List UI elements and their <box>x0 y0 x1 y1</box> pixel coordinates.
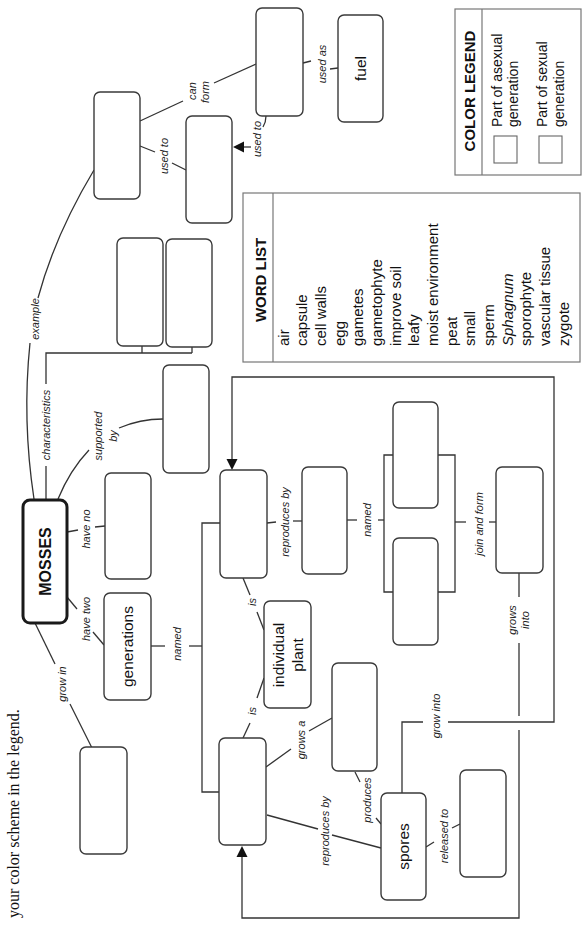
link-label-supported-by: by <box>107 429 119 442</box>
link-label-can-form: form <box>199 81 211 103</box>
link-line-named-bracket <box>202 523 220 792</box>
link-line-have-no <box>67 530 78 532</box>
link-label-have-no: have no <box>80 509 92 548</box>
legend-label-asexual: Part of asexual <box>489 34 505 127</box>
link-line-named-bracket <box>384 455 393 592</box>
word-list-item: gametophyte <box>368 259 385 346</box>
link-line-used-to <box>172 163 186 170</box>
blank-box-gamete-2 <box>393 538 438 645</box>
link-label-example: example <box>29 298 41 340</box>
word-list-item: peat <box>443 316 460 346</box>
link-line-grow-in <box>70 704 92 748</box>
link-line-is <box>243 578 250 595</box>
link-label-characteristics: characteristics <box>40 389 52 460</box>
link-line-reproduces-by <box>332 835 381 848</box>
link-label-have-two: have two <box>80 597 92 641</box>
link-label-released-to: released to <box>438 809 450 863</box>
legend-label-sexual: Part of sexual <box>534 41 550 127</box>
link-line-used-as <box>330 68 338 69</box>
moss-concept-map: your color scheme in the legend. <box>0 0 583 927</box>
link-line-used-to <box>140 146 155 152</box>
link-line-example <box>38 170 94 298</box>
word-list-item: cell walls <box>312 286 329 346</box>
blank-box-sporophyte-generation <box>219 738 266 845</box>
link-line-can-form <box>140 101 183 121</box>
word-list-item: egg <box>331 321 348 346</box>
blank-box-gamete-1 <box>393 402 438 508</box>
link-label-supported-by: supported <box>92 411 104 461</box>
word-list-item: leafy <box>405 314 422 346</box>
link-label-is: is <box>246 707 258 715</box>
word-list-item: moist environment <box>424 223 441 346</box>
link-label-used-to: used to <box>251 121 263 157</box>
link-line-supported-by <box>119 419 163 428</box>
blank-box-characteristic-2 <box>166 239 212 347</box>
link-label-reproduces-by: reproduces by <box>319 795 331 866</box>
word-list-item: gametes <box>349 288 366 346</box>
link-line-released-to <box>452 824 460 828</box>
link-line-produces <box>376 818 381 824</box>
node-generations-label: generations <box>119 606 136 687</box>
word-list-item: small <box>461 311 478 346</box>
legend-swatch-sexual <box>539 136 562 163</box>
blank-box-grows-a <box>332 663 377 771</box>
word-list-item: improve soil <box>387 266 404 346</box>
link-label-is: is <box>246 598 258 606</box>
color-legend-panel: COLOR LEGEND Part of asexual generation … <box>455 9 581 175</box>
word-list-item: sperm <box>480 304 497 346</box>
word-list-item: sporophyte <box>517 272 534 346</box>
link-label-grow-into: grow into <box>430 694 442 739</box>
link-line-used-as <box>303 61 311 63</box>
link-label-join-and-form: join and form <box>473 492 485 558</box>
color-legend-title: COLOR LEGEND <box>461 30 478 151</box>
link-label-grows-a: grows a <box>295 721 307 760</box>
word-list-title: WORD LIST <box>252 238 269 322</box>
blank-box-reproduces-by <box>302 467 347 574</box>
link-label-used-to: used to <box>158 138 170 174</box>
legend-swatch-asexual <box>494 136 517 163</box>
blank-box-have-no <box>105 473 151 579</box>
blank-box-example <box>94 92 140 199</box>
word-list-item: Sphagnum <box>499 273 516 346</box>
link-line-released-to <box>426 842 434 847</box>
central-concept-label: MOSSES <box>37 527 54 596</box>
word-list-panel: WORD LIST air capsule cell walls egg gam… <box>243 193 580 362</box>
link-label-can-form: can <box>186 82 198 100</box>
arrowhead-icon <box>227 459 238 470</box>
blank-box-characteristic-1 <box>117 238 163 346</box>
link-line-can-form <box>214 64 256 83</box>
node-spores-label: spores <box>395 823 412 870</box>
link-label-grows-into: into <box>519 611 531 629</box>
link-line-used-to-arrow <box>263 116 266 127</box>
arrowhead-icon <box>233 142 244 153</box>
word-list-item: vascular tissue <box>536 247 553 346</box>
link-line-is <box>257 678 264 698</box>
link-label-produces: produces <box>361 777 373 824</box>
link-line-grow-in <box>35 623 55 664</box>
link-label-named: named <box>171 626 183 661</box>
link-label-named: named <box>361 502 373 537</box>
link-line-grows-a <box>309 718 332 731</box>
link-line-supported-by <box>58 450 89 499</box>
link-line-produces <box>355 772 360 782</box>
word-list-item: zygote <box>555 302 572 346</box>
link-line-reproduces-by <box>267 522 276 523</box>
node-individual-plant-label: individual <box>270 623 287 688</box>
link-line-have-two <box>93 632 104 645</box>
legend-label-sexual: generation <box>551 61 567 127</box>
blank-box-used-to <box>186 116 232 223</box>
link-line-example <box>27 343 34 499</box>
instruction-text: your color scheme in the legend. <box>5 709 23 918</box>
link-label-grow-in: grow in <box>56 666 68 701</box>
legend-label-asexual: generation <box>505 61 521 127</box>
word-list-item: capsule <box>293 294 310 346</box>
arrowhead-icon <box>237 846 248 857</box>
link-line-grow-into <box>402 722 423 793</box>
blank-box-can-form <box>256 8 303 116</box>
blank-box-join-and-form <box>496 467 543 573</box>
blank-box-supported-by <box>163 365 209 473</box>
node-individual-plant-label: plant <box>289 638 306 672</box>
link-line-reproduces-by <box>267 815 318 829</box>
blank-box-grow-in <box>80 747 127 854</box>
link-line-grows-a <box>266 749 291 767</box>
